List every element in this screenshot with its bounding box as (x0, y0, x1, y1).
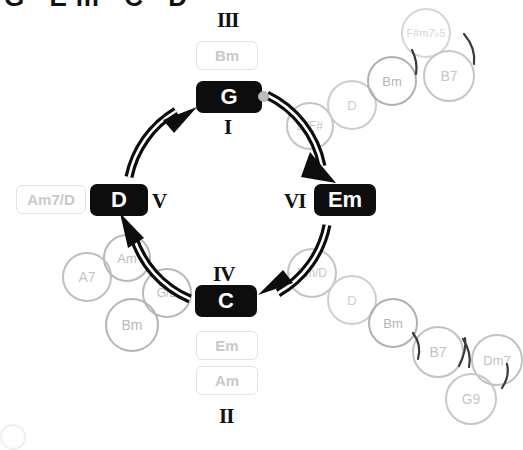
secondary-chip-am-bot[interactable]: Am (196, 366, 258, 395)
chord-chip-em[interactable]: Em (314, 184, 376, 216)
roman-numeral-VI: VI (284, 189, 305, 214)
secondary-chip-bm-top[interactable]: Bm (196, 41, 258, 70)
chord-chip-c[interactable]: C (195, 285, 257, 317)
arrow-d-to-g (129, 107, 197, 177)
arrow-c-to-d (120, 213, 190, 299)
start-marker-dot[interactable] (258, 91, 269, 102)
chord-chip-d[interactable]: D (90, 184, 148, 216)
arrow-em-to-c (258, 225, 327, 295)
roman-numeral-III: III (217, 8, 239, 33)
roman-numeral-IV: IV (213, 262, 234, 287)
roman-numeral-V: V (152, 189, 166, 214)
secondary-chip-am7-d[interactable]: Am7/D (16, 185, 86, 214)
secondary-chip-em-bot[interactable]: Em (196, 331, 258, 360)
roman-numeral-II: II (219, 404, 233, 429)
roman-numeral-I: I (224, 115, 231, 140)
arrow-g-to-em (267, 95, 336, 183)
chord-chip-g[interactable]: G (196, 81, 262, 113)
